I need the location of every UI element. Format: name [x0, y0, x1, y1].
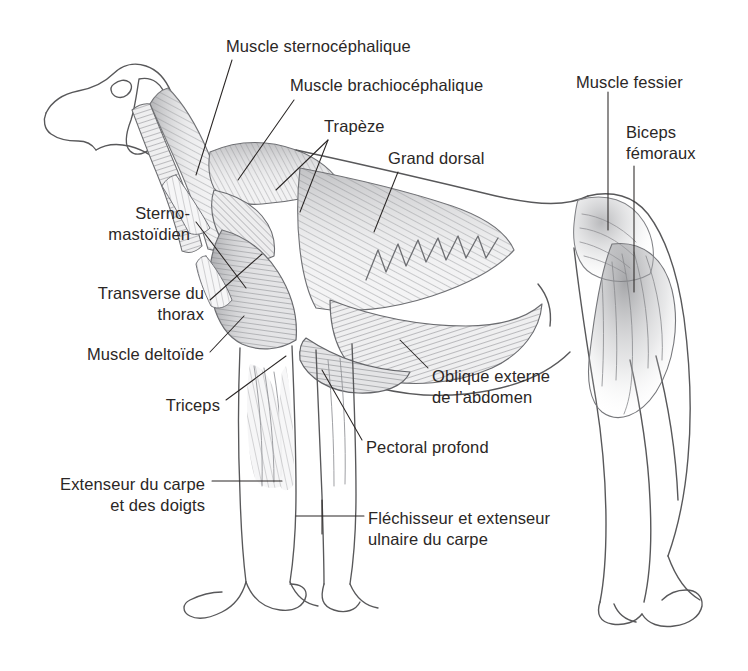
- label-muscle-deltoide: Muscle deltoïde: [87, 344, 204, 365]
- label-extenseur-carpe: Extenseur du carpe et des doigts: [60, 474, 205, 516]
- label-grand-dorsal: Grand dorsal: [388, 148, 485, 169]
- label-brachiocephalique: Muscle brachiocéphalique: [290, 75, 483, 96]
- label-transverse-thorax: Transverse du thorax: [98, 283, 204, 325]
- label-sternocephalique: Muscle sternocéphalique: [226, 36, 411, 57]
- label-muscle-fessier: Muscle fessier: [576, 72, 683, 93]
- anatomy-illustration: [0, 0, 748, 671]
- ulnaris-carpi-muscle: [279, 366, 295, 490]
- label-biceps-femoraux: Biceps fémoraux: [626, 122, 696, 164]
- carpal-extensor-muscle: [247, 364, 283, 488]
- label-trapeze: Trapèze: [324, 116, 385, 137]
- label-pectoral-profond: Pectoral profond: [366, 437, 489, 458]
- dog-muscle-anatomy-figure: [0, 0, 748, 671]
- label-sterno-mastoidien: Sterno- mastoïdien: [108, 203, 190, 245]
- label-flechisseur-ulnaire: Fléchisseur et extenseur ulnaire du carp…: [368, 508, 550, 550]
- label-triceps: Triceps: [166, 395, 220, 416]
- label-oblique-externe: Oblique externe de l’abdomen: [432, 366, 550, 408]
